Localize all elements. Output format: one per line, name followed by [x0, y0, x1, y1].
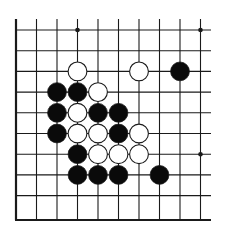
black-stone[interactable]: [68, 83, 87, 102]
black-stone[interactable]: [109, 124, 128, 143]
black-stone[interactable]: [68, 166, 87, 185]
star-point-icon: [198, 152, 203, 157]
white-stone[interactable]: [68, 103, 87, 122]
black-stone[interactable]: [150, 166, 169, 185]
white-stone[interactable]: [89, 145, 108, 164]
white-stone[interactable]: [130, 124, 149, 143]
black-stone[interactable]: [48, 103, 67, 122]
black-stone[interactable]: [109, 166, 128, 185]
black-stone[interactable]: [68, 145, 87, 164]
white-stone[interactable]: [130, 145, 149, 164]
white-stone[interactable]: [89, 124, 108, 143]
white-stone[interactable]: [68, 62, 87, 81]
black-stone[interactable]: [89, 103, 108, 122]
star-point-icon: [75, 28, 80, 33]
black-stone[interactable]: [171, 62, 190, 81]
black-stone[interactable]: [48, 124, 67, 143]
white-stone[interactable]: [109, 145, 128, 164]
black-stone[interactable]: [48, 83, 67, 102]
black-stone[interactable]: [89, 166, 108, 185]
white-stone[interactable]: [68, 124, 87, 143]
star-point-icon: [198, 28, 203, 33]
white-stone[interactable]: [89, 83, 108, 102]
white-stone[interactable]: [130, 62, 149, 81]
go-board[interactable]: [0, 0, 225, 234]
black-stone[interactable]: [109, 103, 128, 122]
